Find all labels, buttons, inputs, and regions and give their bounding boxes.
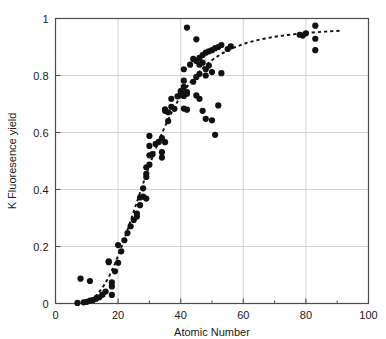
data-point (193, 36, 199, 42)
data-point (196, 71, 202, 77)
data-point (203, 116, 209, 122)
data-point (196, 96, 202, 102)
data-point (159, 149, 165, 155)
data-point (209, 69, 215, 75)
x-tick-label: 40 (175, 309, 187, 321)
data-point (181, 66, 187, 72)
data-point (228, 43, 234, 49)
data-point (146, 133, 152, 139)
data-point (209, 117, 215, 123)
chart-background (0, 0, 386, 339)
data-point (212, 132, 218, 138)
data-point (87, 278, 93, 284)
y-tick-label: 1 (42, 13, 48, 25)
y-tick-label: 0.2 (33, 241, 48, 253)
data-point (218, 70, 224, 76)
data-point (149, 151, 155, 157)
data-point (77, 276, 83, 282)
data-point (143, 196, 149, 202)
data-point (121, 237, 127, 243)
data-point (165, 118, 171, 124)
data-point (312, 47, 318, 53)
k-fluorescence-yield-chart: 020406080100 00.20.40.60.81 Atomic Numbe… (0, 0, 386, 339)
data-point (137, 202, 143, 208)
data-point (134, 211, 140, 217)
data-point (109, 292, 115, 298)
data-point (128, 223, 134, 229)
data-point (162, 139, 168, 145)
data-point (140, 185, 146, 191)
data-point (112, 268, 118, 274)
data-point (115, 260, 121, 266)
data-point (215, 102, 221, 108)
data-point (165, 109, 171, 115)
data-point (312, 36, 318, 42)
x-tick-label: 20 (112, 309, 124, 321)
y-tick-label: 0 (42, 298, 48, 310)
x-tick-label: 60 (237, 309, 249, 321)
x-tick-label: 80 (300, 309, 312, 321)
y-tick-label: 0.4 (33, 184, 48, 196)
y-tick-label: 0.6 (33, 127, 48, 139)
data-point (187, 62, 193, 68)
data-point (124, 230, 130, 236)
x-axis-title: Atomic Number (174, 326, 250, 338)
y-tick-label: 0.8 (33, 70, 48, 82)
data-point (184, 107, 190, 113)
data-point (159, 154, 165, 160)
data-point (102, 288, 108, 294)
data-point (109, 279, 115, 285)
scatter-plot-canvas: 020406080100 00.20.40.60.81 Atomic Numbe… (0, 0, 386, 339)
x-tick-label: 0 (52, 309, 58, 321)
data-point (106, 258, 112, 264)
y-axis-title: K Fluoresence yield (6, 113, 18, 210)
data-point (168, 96, 174, 102)
data-point (200, 108, 206, 114)
data-point (146, 162, 152, 168)
data-point (143, 171, 149, 177)
data-point (312, 23, 318, 29)
data-point (206, 62, 212, 68)
data-point (115, 242, 121, 248)
data-point (200, 60, 206, 66)
data-point (146, 143, 152, 149)
data-point (74, 300, 80, 306)
x-tick-label: 100 (359, 309, 377, 321)
data-point (184, 25, 190, 31)
data-point (118, 248, 124, 254)
data-point (184, 91, 190, 97)
data-point (181, 78, 187, 84)
data-point (303, 30, 309, 36)
data-point (171, 106, 177, 112)
data-point (218, 42, 224, 48)
data-point (203, 72, 209, 78)
data-point (181, 84, 187, 90)
